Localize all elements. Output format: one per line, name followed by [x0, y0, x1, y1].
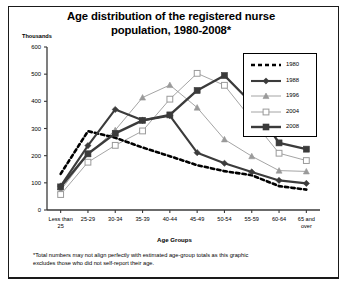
footnote-divider — [8, 277, 339, 279]
legend-label-1996: 1996 — [286, 92, 299, 98]
legend-label-1988: 1988 — [286, 77, 299, 83]
y-axis-tick-label: 400 — [19, 98, 41, 104]
y-axis-tick-label: 600 — [19, 44, 41, 50]
x-axis-title: Age Groups — [0, 236, 349, 243]
chart-footnote: *Total numbers may not align perfectly w… — [33, 251, 323, 267]
legend-swatch-2004 — [249, 104, 283, 120]
legend-item-1988[interactable]: 1988 — [244, 73, 318, 89]
chart-legend: 19801988199620042008 — [243, 53, 317, 137]
legend-swatch-1996 — [249, 88, 283, 104]
chart-title: Age distribution of the registered nurse… — [46, 10, 296, 37]
chart-figure: Age distribution of the registered nurse… — [0, 0, 349, 291]
chart-title-line-1: Age distribution of the registered nurse — [46, 10, 296, 24]
legend-item-2004[interactable]: 2004 — [244, 104, 318, 120]
x-axis-tick-label: 65 andover — [286, 216, 326, 230]
legend-item-2008[interactable]: 2008 — [244, 119, 318, 135]
legend-item-1980[interactable]: 1980 — [244, 57, 318, 73]
legend-swatch-2008 — [249, 119, 283, 135]
y-axis-tick-label: 100 — [19, 180, 41, 186]
y-axis-tick-label: 0 — [19, 207, 41, 213]
series-1980 — [61, 131, 307, 189]
legend-swatch-1988 — [249, 73, 283, 89]
legend-label-2004: 2004 — [286, 108, 299, 114]
footnote-line-2: excludes those who did not self-report t… — [33, 259, 323, 267]
y-axis-tick-label: 300 — [19, 126, 41, 132]
chart-title-line-2: population, 1980-2008* — [46, 24, 296, 38]
y-axis-tick-label: 200 — [19, 153, 41, 159]
legend-label-1980: 1980 — [286, 61, 299, 67]
footnote-line-1: *Total numbers may not align perfectly w… — [33, 251, 323, 259]
y-axis-unit-label: Thousands — [22, 33, 52, 39]
legend-item-1996[interactable]: 1996 — [244, 88, 318, 104]
y-axis-tick-label: 500 — [19, 71, 41, 77]
legend-label-2008: 2008 — [286, 123, 299, 129]
legend-swatch-1980 — [249, 57, 283, 73]
